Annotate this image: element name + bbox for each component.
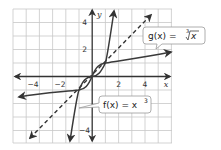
graph: −4 −2 2 4 x 4 2 −4 y g(x) = 3 x f(x) = x… [0, 0, 221, 150]
y-axis-label: y [96, 10, 102, 19]
x-tick-2: 2 [116, 80, 121, 89]
svg-text:g(x) =: g(x) = [148, 31, 176, 41]
x-tick-neg4: −4 [27, 80, 38, 89]
x-axis-label: x [164, 80, 169, 89]
svg-text:x: x [190, 31, 197, 41]
g-function-label: g(x) = 3 x [143, 27, 205, 49]
y-tick-neg4: −4 [79, 126, 90, 135]
svg-text:f(x) = x: f(x) = x [103, 100, 138, 110]
svg-text:3: 3 [144, 97, 148, 104]
x-tick-neg2: −2 [54, 80, 65, 89]
y-tick-2: 2 [82, 45, 87, 54]
x-tick-4: 4 [143, 80, 148, 89]
svg-text:3: 3 [186, 28, 189, 34]
y-tick-4: 4 [82, 18, 87, 27]
f-function-label: f(x) = x 3 [79, 96, 151, 113]
